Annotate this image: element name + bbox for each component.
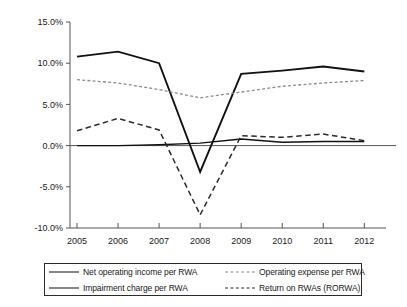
x-axis-tick-label: 2010	[272, 236, 292, 246]
x-axis-tick-label: 2008	[190, 236, 210, 246]
series-line-0	[77, 52, 364, 172]
legend-swatch-solid-thin-icon	[49, 284, 79, 292]
legend-label: Net operating income per RWA	[83, 268, 197, 277]
x-axis-tick-label: 2005	[67, 236, 87, 246]
series-line-2	[77, 139, 364, 146]
chart-legend: Net operating income per RWA Operating e…	[44, 263, 362, 296]
x-axis-tick-label: 2007	[149, 236, 169, 246]
x-axis-tick-label: 2012	[354, 236, 374, 246]
legend-swatch-dashed-icon	[225, 284, 255, 292]
legend-label: Return on RWAs (RORWA)	[259, 284, 360, 293]
y-axis-tick-label: 5.0%	[42, 100, 63, 110]
legend-item-operating-expense: Operating expense per RWA	[221, 268, 363, 277]
legend-swatch-dotted-icon	[225, 268, 255, 276]
y-axis-tick-label: 10.0%	[37, 58, 63, 68]
series-line-3	[77, 118, 364, 214]
y-axis: 15.0%10.0%5.0%0.0%-5.0%-10.0%	[34, 17, 70, 233]
legend-item-return-on-rwas: Return on RWAs (RORWA)	[221, 284, 363, 293]
data-series-group	[77, 52, 364, 215]
legend-label: Operating expense per RWA	[259, 268, 365, 277]
x-axis-tick-label: 2009	[231, 236, 251, 246]
x-axis-tick-label: 2006	[108, 236, 128, 246]
y-axis-tick-label: 15.0%	[37, 17, 63, 27]
series-line-1	[77, 80, 364, 98]
y-axis-tick-label: 0.0%	[42, 141, 63, 151]
legend-item-impairment-charge: Impairment charge per RWA	[45, 284, 221, 293]
x-axis-tick-label: 2011	[314, 236, 333, 246]
legend-label: Impairment charge per RWA	[83, 284, 188, 293]
x-axis: 20052006200720082009201020112012	[67, 146, 396, 246]
y-axis-tick-label: -10.0%	[34, 223, 63, 233]
y-axis-tick-label: -5.0%	[39, 182, 63, 192]
chart-container: 15.0%10.0%5.0%0.0%-5.0%-10.0% 2005200620…	[0, 0, 407, 307]
legend-item-net-operating-income: Net operating income per RWA	[45, 268, 221, 277]
legend-swatch-solid-thick-icon	[49, 268, 79, 276]
line-chart-plot: 15.0%10.0%5.0%0.0%-5.0%-10.0% 2005200620…	[0, 0, 407, 307]
